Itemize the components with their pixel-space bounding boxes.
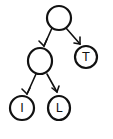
edge-left-leftleft bbox=[22, 74, 36, 94]
node-label: I bbox=[20, 101, 24, 115]
node-root bbox=[47, 6, 71, 30]
node-leaf-I: I bbox=[10, 96, 34, 120]
edge-left-leftright bbox=[47, 74, 59, 92]
node-leaf-L: L bbox=[48, 96, 70, 120]
edge-root-right bbox=[66, 28, 80, 44]
node-label: T bbox=[81, 50, 90, 64]
edge-root-left bbox=[39, 28, 52, 46]
node-right-T: T bbox=[75, 46, 97, 68]
tree-diagram: T I L bbox=[0, 0, 113, 139]
node-left bbox=[28, 48, 52, 74]
node-label: L bbox=[56, 101, 63, 115]
